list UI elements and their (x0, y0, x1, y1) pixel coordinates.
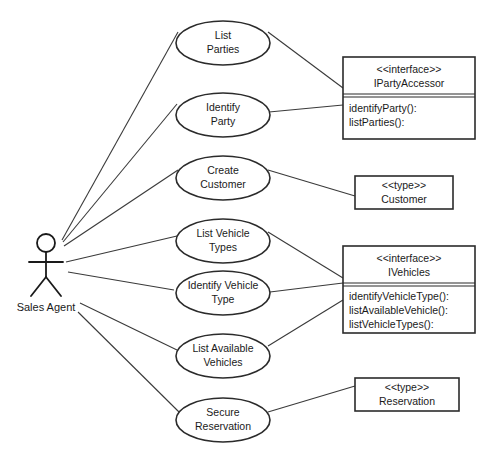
classifier-ivehicles[interactable]: <<interface>> IVehicles identifyVehicleT… (343, 246, 475, 333)
classifier-stereotype: <<interface>> (377, 252, 442, 264)
classifier-method: identifyParty(): (349, 102, 417, 114)
association-identify-vehicle-type-ivehicles (270, 283, 343, 292)
association-create-customer-customer (268, 170, 355, 196)
use-case-secure-reservation[interactable]: Secure Reservation (176, 398, 270, 442)
use-case-label-line2: Vehicles (203, 356, 242, 368)
classifier-stereotype: <<type>> (382, 179, 426, 191)
association-list-available-vehicles-ivehicles (268, 300, 343, 346)
classifier-stereotype: <<type>> (385, 381, 429, 393)
classifier-method: identifyVehicleType(): (349, 290, 449, 302)
use-case-list-available-vehicles[interactable]: List Available Vehicles (176, 334, 270, 378)
use-case-label-line1: List Vehicle (196, 227, 249, 239)
association-actor-create-customer (64, 170, 178, 246)
use-case-label-line2: Reservation (195, 420, 251, 432)
use-case-label-line1: Secure (206, 406, 239, 418)
actor-head-icon (37, 234, 55, 252)
use-case-label-line1: Identify Vehicle (188, 279, 259, 291)
association-actor-identify-party (63, 104, 177, 242)
use-case-identify-vehicle-type[interactable]: Identify Vehicle Type (176, 271, 270, 315)
association-actor-identify-vehicle-type (68, 272, 174, 290)
classifier-iparty-accessor[interactable]: <<interface>> IPartyAccessor identifyPar… (343, 57, 475, 139)
association-lines-actor (62, 32, 179, 412)
classifier-method: listParties(): (349, 116, 404, 128)
association-actor-list-vehicle-types (66, 236, 177, 262)
association-list-vehicle-types-ivehicles (268, 232, 343, 278)
classifier-name: IPartyAccessor (374, 77, 445, 89)
use-case-label-line1: List (215, 29, 231, 41)
association-actor-list-available-vehicles (80, 303, 177, 350)
association-list-parties-iparty-accessor (268, 32, 343, 88)
classifier-method: listVehicleTypes(): (349, 318, 434, 330)
use-case-label-line2: Type (212, 293, 235, 305)
use-case-list-parties[interactable]: List Parties (176, 21, 270, 65)
use-case-label-line1: Create (207, 164, 239, 176)
use-case-label-line2: Party (211, 115, 236, 127)
use-case-label-line2: Parties (207, 43, 240, 55)
association-identify-party-iparty-accessor (269, 105, 343, 112)
association-lines-classifiers (268, 32, 355, 412)
use-case-label-line2: Types (209, 241, 237, 253)
use-case-label-line1: List Available (192, 342, 253, 354)
actor-right-leg-icon (46, 277, 61, 296)
use-case-list-vehicle-types[interactable]: List Vehicle Types (176, 219, 270, 263)
classifier-reservation-type[interactable]: <<type>> Reservation (355, 378, 459, 411)
actor-sales-agent[interactable]: Sales Agent (17, 234, 76, 313)
association-secure-reservation-reservation (268, 386, 355, 412)
classifier-stereotype: <<interface>> (377, 63, 442, 75)
use-case-label-line2: Customer (200, 178, 246, 190)
classifier-name: Reservation (379, 395, 435, 407)
classifier-customer-type[interactable]: <<type>> Customer (355, 176, 453, 209)
diagram-canvas: Sales Agent List Parties Identify Party … (0, 0, 485, 461)
use-case-identify-party[interactable]: Identify Party (176, 93, 270, 137)
use-case-create-customer[interactable]: Create Customer (176, 156, 270, 200)
actor-label: Sales Agent (17, 301, 76, 313)
actor-left-leg-icon (31, 277, 46, 296)
uml-use-case-diagram: Sales Agent List Parties Identify Party … (0, 0, 485, 461)
classifier-name: Customer (381, 193, 427, 205)
use-case-label-line1: Identify (206, 101, 241, 113)
classifier-method: listAvailableVehicle(): (349, 304, 448, 316)
classifier-name: IVehicles (388, 266, 430, 278)
